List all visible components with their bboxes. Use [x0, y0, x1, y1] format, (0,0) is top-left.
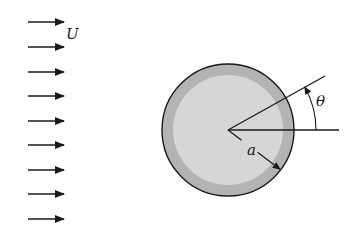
uniform-flow-arrows — [28, 22, 64, 219]
flow-velocity-label: U — [66, 25, 80, 43]
theta-arc-arrow — [305, 87, 316, 130]
theta-label: θ — [316, 92, 325, 110]
radius-label: a — [247, 141, 256, 159]
cylinder-flow-diagram: U θ a — [0, 0, 362, 242]
